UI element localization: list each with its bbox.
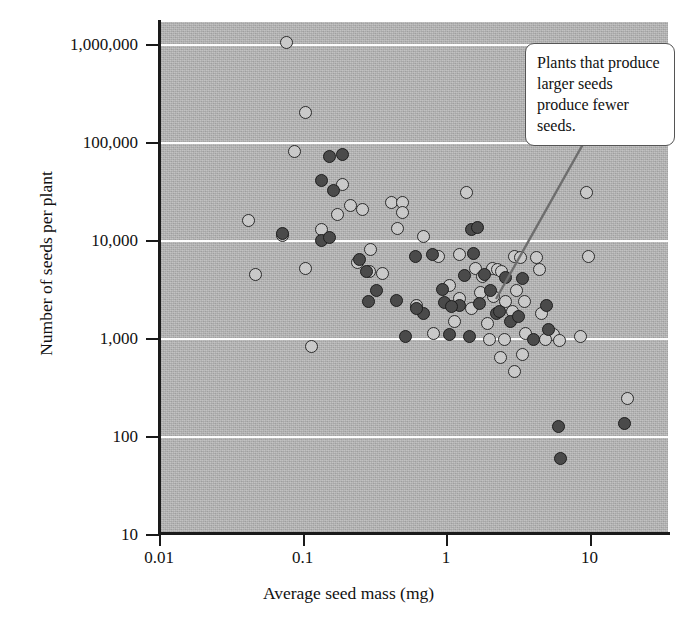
data-point: [396, 206, 409, 219]
annotation-callout: Plants that produce larger seeds produce…: [525, 43, 675, 146]
data-point: [508, 365, 521, 378]
data-point: [427, 327, 440, 340]
data-point: [552, 420, 565, 433]
data-point: [276, 227, 289, 240]
data-point: [362, 295, 375, 308]
data-point: [473, 297, 486, 310]
data-point: [618, 417, 631, 430]
gridline: [160, 240, 668, 242]
data-point: [471, 221, 484, 234]
x-axis-tick: [159, 534, 161, 546]
data-point: [621, 392, 634, 405]
data-point: [514, 251, 527, 264]
x-axis-tick-label: 0.1: [263, 549, 343, 567]
x-axis-tick: [303, 534, 305, 546]
data-point: [494, 351, 507, 364]
data-point: [453, 248, 466, 261]
data-point: [498, 333, 511, 346]
y-axis-tick-label: 100: [14, 428, 138, 445]
y-axis-tick-label: 10,000: [14, 232, 138, 249]
data-point: [499, 271, 512, 284]
data-point: [493, 305, 506, 318]
data-point: [360, 265, 373, 278]
data-point: [315, 174, 328, 187]
data-point: [323, 150, 336, 163]
data-point: [512, 310, 525, 323]
data-point: [533, 263, 546, 276]
x-axis-tick-label: 10: [550, 549, 630, 567]
data-point: [458, 269, 471, 282]
x-axis-tick-label: 1: [406, 549, 486, 567]
data-point: [305, 340, 318, 353]
data-point: [448, 315, 461, 328]
data-point: [554, 452, 567, 465]
data-point: [399, 330, 412, 343]
y-axis-tick-label: 1,000,000: [14, 36, 138, 53]
data-point: [426, 248, 439, 261]
y-axis-line: [158, 20, 161, 535]
data-point: [409, 250, 422, 263]
data-point: [336, 148, 349, 161]
data-point: [518, 295, 531, 308]
data-point: [299, 262, 312, 275]
data-point: [280, 36, 293, 49]
y-axis-tick: [146, 240, 159, 242]
y-axis-tick: [146, 534, 159, 536]
y-axis-tick: [146, 436, 159, 438]
data-point: [288, 145, 301, 158]
x-axis-tick-label: 0.01: [119, 549, 199, 567]
y-axis-title: Number of seeds per plant: [36, 114, 57, 414]
data-point: [242, 214, 255, 227]
data-point: [390, 294, 403, 307]
data-point: [327, 184, 340, 197]
gridline: [160, 338, 668, 340]
data-point: [530, 251, 543, 264]
data-point: [540, 299, 553, 312]
gridline: [160, 436, 668, 438]
data-point: [527, 333, 540, 346]
seed-mass-scatter-figure: 1,000,000100,00010,0001,00010010 0.010.1…: [0, 0, 697, 623]
data-point: [460, 186, 473, 199]
data-point: [483, 333, 496, 346]
data-point: [410, 302, 423, 315]
data-point: [344, 199, 357, 212]
data-point: [574, 330, 587, 343]
data-point: [323, 231, 336, 244]
y-axis-tick: [146, 142, 159, 144]
data-point: [299, 106, 312, 119]
data-point: [331, 208, 344, 221]
data-point: [516, 272, 529, 285]
data-point: [516, 348, 529, 361]
data-point: [553, 334, 566, 347]
y-axis-tick-label: 100,000: [14, 134, 138, 151]
x-axis-tick: [590, 534, 592, 546]
data-point: [443, 328, 456, 341]
data-point: [580, 186, 593, 199]
x-axis-tick: [446, 534, 448, 546]
data-point: [364, 243, 377, 256]
data-point: [356, 203, 369, 216]
y-axis-tick: [146, 44, 159, 46]
x-axis-title: Average seed mass (mg): [0, 583, 697, 604]
y-axis-tick-label: 10: [14, 526, 138, 543]
y-axis-tick-label: 1,000: [14, 330, 138, 347]
data-point: [467, 247, 480, 260]
data-point: [582, 250, 595, 263]
data-point: [478, 268, 491, 281]
data-point: [391, 222, 404, 235]
data-point: [463, 330, 476, 343]
y-axis-tick: [146, 338, 159, 340]
data-point: [436, 283, 449, 296]
x-axis-line: [158, 532, 670, 535]
data-point: [376, 267, 389, 280]
data-point: [249, 268, 262, 281]
